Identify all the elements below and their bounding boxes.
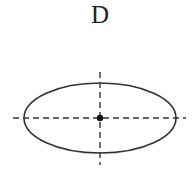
ellipse-diagram [0, 0, 192, 177]
center-point [97, 115, 103, 121]
